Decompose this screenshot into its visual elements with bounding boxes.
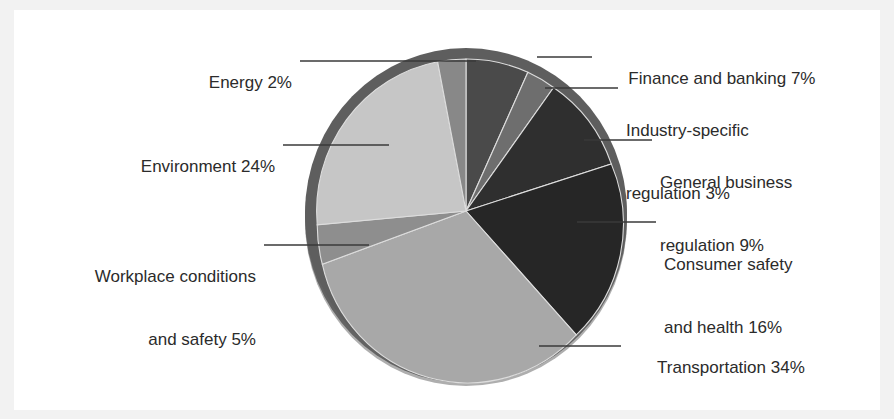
pie-chart-figure: Energy 2% Environment 24% Workplace cond… (0, 0, 894, 419)
callout-general-business-line1: General business (660, 172, 890, 193)
figure-page: Energy 2% Environment 24% Workplace cond… (0, 0, 894, 419)
callout-energy-line1: Energy 2% (209, 73, 292, 92)
callout-consumer-safety-line2: and health 16% (664, 317, 889, 338)
callout-workplace-line1: Workplace conditions (20, 266, 256, 287)
callout-label-transportation: Transportation 34% (629, 336, 879, 399)
callout-label-energy: Energy 2% (100, 51, 292, 114)
callout-label-workplace: Workplace conditions and safety 5% (20, 224, 256, 392)
callout-environment-line1: Environment 24% (141, 157, 275, 176)
callout-consumer-safety-line1: Consumer safety (664, 254, 889, 275)
callout-transportation-line1: Transportation 34% (657, 358, 805, 377)
pie-slices (317, 59, 624, 383)
callout-workplace-line2: and safety 5% (20, 329, 256, 350)
callout-label-environment: Environment 24% (60, 135, 275, 198)
